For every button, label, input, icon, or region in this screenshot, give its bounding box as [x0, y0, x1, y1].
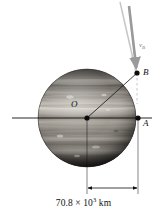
label-center-o: O — [71, 100, 78, 109]
point-marker-center-o — [84, 115, 89, 120]
dimension-label: 70.8 × 103 km — [0, 196, 167, 208]
label-point-b: B — [143, 68, 149, 77]
point-marker-a — [135, 115, 140, 120]
label-point-a: A — [143, 119, 149, 128]
dimension-unit: km — [96, 198, 111, 208]
figure-canvas — [0, 0, 167, 217]
point-marker-b — [134, 70, 139, 75]
jupiter-trajectory-figure: O A B vB 70.8 × 103 km — [0, 0, 167, 217]
velocity-subscript: B — [142, 45, 145, 50]
dimension-value: 70.8 × 10 — [56, 198, 93, 208]
label-velocity-vb: vB — [139, 42, 145, 50]
